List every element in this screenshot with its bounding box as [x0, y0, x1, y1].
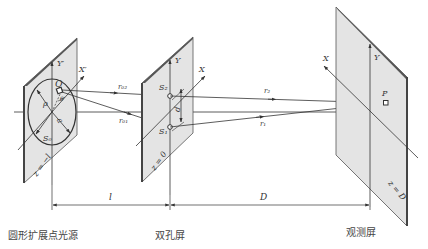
dimension-d-label: D: [259, 192, 267, 202]
s1-label: S₁: [159, 127, 168, 136]
screen-y-axis-label: Y: [374, 53, 380, 62]
double-hole-caption: 双孔屏: [155, 227, 185, 242]
r1-label: r₁: [260, 120, 266, 128]
source-x-axis-label: X′: [78, 65, 87, 74]
r02-label: r₀₂: [118, 83, 127, 91]
rho-label: ρ: [42, 99, 48, 108]
s0-label: S₀: [43, 134, 52, 143]
r2-label: r₂: [264, 87, 270, 95]
diagram-canvas: Y′ X′ Q ρ θ a S₀ z = −l r₀₂ r₀₁ Y X S₂ S…: [0, 0, 428, 249]
point-p-label: P: [381, 89, 388, 98]
source-panel: [18, 38, 84, 185]
holes-y-axis-label: Y: [175, 56, 181, 65]
theta-label: θ: [60, 95, 64, 102]
point-q-label: Q: [55, 79, 63, 89]
r01-label: r₀₁: [119, 117, 128, 125]
observation-caption: 观测屏: [346, 224, 376, 239]
screen-x-axis-label: X: [322, 54, 329, 63]
source-y-axis-label: Y′: [57, 59, 64, 68]
s2-label: S₂: [159, 83, 168, 92]
double-hole-panel: [136, 37, 205, 195]
dimension-l-label: l: [109, 192, 112, 202]
point-p: [384, 101, 389, 106]
holes-x-axis-label: X: [198, 65, 205, 74]
source-caption: 圆形扩展点光源: [8, 227, 78, 242]
